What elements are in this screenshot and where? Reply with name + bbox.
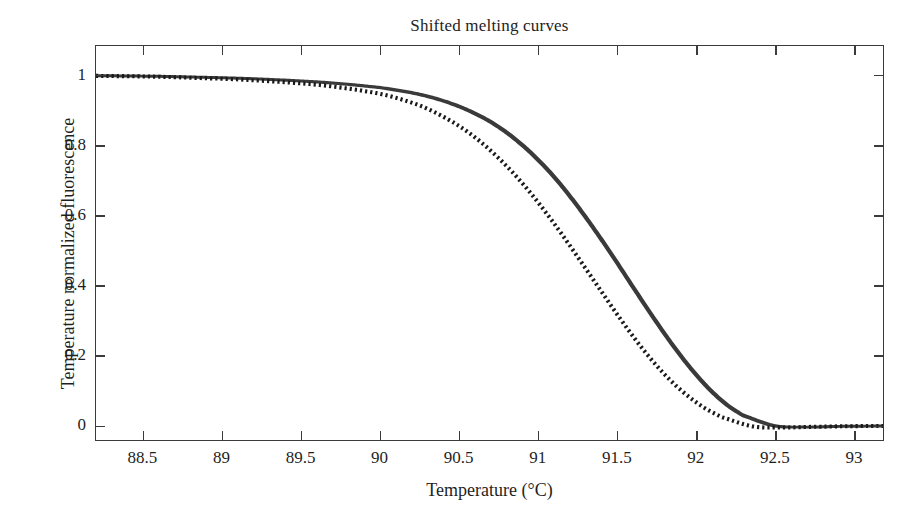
y-tick-mark [96, 355, 105, 356]
y-tick-label: 1 [78, 65, 87, 85]
x-tick-mark [143, 431, 144, 440]
y-tick-mark [874, 355, 883, 356]
y-tick-mark [96, 285, 105, 286]
dotted-shifted-curve [96, 76, 883, 428]
x-tick-label: 89.5 [286, 448, 316, 468]
x-tick-label: 91 [529, 448, 546, 468]
x-tick-mark [301, 46, 302, 55]
x-tick-mark [222, 431, 223, 440]
x-tick-mark [696, 46, 697, 55]
x-tick-label: 90.5 [444, 448, 474, 468]
x-tick-mark [222, 46, 223, 55]
x-tick-label: 91.5 [602, 448, 632, 468]
x-tick-mark [459, 46, 460, 55]
x-tick-label: 88.5 [128, 448, 158, 468]
y-tick-mark [874, 75, 883, 76]
x-axis-title: Temperature (°C) [95, 480, 884, 501]
x-tick-mark [538, 431, 539, 440]
chart-title: Shifted melting curves [95, 16, 884, 36]
y-tick-mark [874, 145, 883, 146]
x-tick-mark [617, 431, 618, 440]
x-tick-mark [854, 431, 855, 440]
x-tick-label: 92.5 [760, 448, 790, 468]
x-tick-mark [459, 431, 460, 440]
y-tick-mark [96, 75, 105, 76]
y-axis-title: Temperature normalized fluorescence [58, 54, 79, 454]
x-tick-mark [538, 46, 539, 55]
plot-area [95, 45, 884, 441]
x-tick-mark [775, 431, 776, 440]
y-tick-mark [874, 215, 883, 216]
x-tick-mark [854, 46, 855, 55]
curves-svg [96, 46, 883, 440]
x-tick-mark [617, 46, 618, 55]
x-tick-mark [380, 46, 381, 55]
x-tick-mark [301, 431, 302, 440]
x-tick-label: 92 [687, 448, 704, 468]
x-tick-mark [775, 46, 776, 55]
x-tick-label: 93 [845, 448, 862, 468]
y-tick-mark [96, 215, 105, 216]
solid-curve-bundle [96, 74, 883, 428]
x-tick-mark [380, 431, 381, 440]
x-tick-label: 89 [213, 448, 230, 468]
y-tick-mark [96, 426, 105, 427]
y-tick-mark [874, 285, 883, 286]
y-tick-mark [874, 426, 883, 427]
x-tick-label: 90 [371, 448, 388, 468]
y-tick-mark [96, 145, 105, 146]
y-tick-label: 0 [78, 415, 87, 435]
figure-canvas: Shifted melting curves 88.58989.59090.59… [0, 0, 909, 525]
x-tick-mark [143, 46, 144, 55]
x-tick-mark [696, 431, 697, 440]
